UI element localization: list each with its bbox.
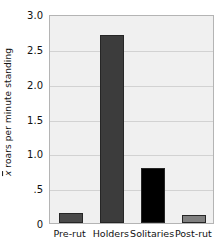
bar-post-rut [182,215,206,223]
y-axis-tick-label: 3.0 [27,10,43,21]
y-axis-title-mean-symbol: x [3,171,13,176]
bar-holders [100,35,124,223]
x-axis-tick-label: Post-rut [175,228,212,239]
plot-area [49,15,214,224]
bar-solitaries [141,168,165,223]
y-axis-tick-label: .5 [33,184,43,195]
bar-chart-figure: x roars per minute standing 0.51.01.52.0… [0,0,222,251]
x-axis-tick-label: Pre-rut [54,228,86,239]
bar-pre-rut [59,213,83,223]
y-axis-tick-label: 1.0 [27,149,43,160]
y-axis-tick-label: 1.5 [27,114,43,125]
y-axis-tick-label: 2.0 [27,79,43,90]
x-axis-tick-labels: Pre-rutHoldersSolitariesPost-rut [49,228,214,248]
y-axis-title-text: roars per minute standing [3,48,13,171]
x-axis-tick-label: Holders [93,228,129,239]
y-axis-tick-label: 0 [37,219,43,230]
y-axis-tick-label: 2.5 [27,44,43,55]
x-axis-tick-label: Solitaries [130,228,174,239]
bar-series [50,16,213,223]
y-axis-tick-labels: 0.51.01.52.02.53.0 [14,0,46,251]
